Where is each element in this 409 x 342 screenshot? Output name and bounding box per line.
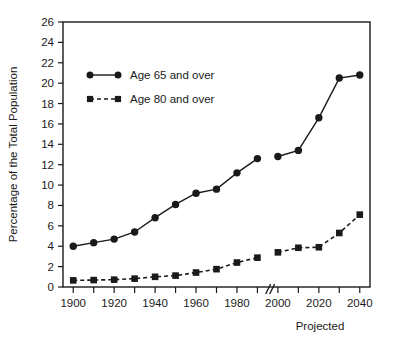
data-point-marker-series-1 bbox=[274, 153, 281, 160]
data-point-marker-series-2 bbox=[336, 230, 343, 237]
y-axis-tick-label: 18 bbox=[41, 98, 54, 110]
data-point-marker-series-2 bbox=[152, 274, 159, 281]
legend-label-series-1: Age 65 and over bbox=[130, 69, 215, 81]
data-point-marker-series-2 bbox=[172, 272, 179, 279]
y-axis-tick-label: 16 bbox=[41, 118, 54, 130]
data-point-marker-series-2 bbox=[70, 277, 77, 284]
line-chart-canvas: 0246810121416182022242619001920194019601… bbox=[0, 0, 409, 342]
series-line-2 bbox=[73, 258, 257, 281]
y-axis-tick-label: 26 bbox=[41, 16, 54, 28]
legend-marker-series-1 bbox=[87, 72, 94, 79]
data-point-marker-series-1 bbox=[90, 239, 97, 246]
x-axis-tick-label: 2000 bbox=[265, 297, 291, 309]
data-point-marker-series-2 bbox=[90, 277, 97, 284]
projected-annotation: Projected bbox=[296, 320, 345, 332]
x-axis-tick-label: 1940 bbox=[142, 297, 168, 309]
x-axis-tick-label: 1920 bbox=[101, 297, 127, 309]
legend-marker-series-2 bbox=[87, 96, 93, 102]
legend-marker-series-2 bbox=[115, 96, 121, 102]
plot-frame bbox=[63, 22, 370, 287]
data-point-marker-series-1 bbox=[356, 71, 363, 78]
data-point-marker-series-1 bbox=[295, 147, 302, 154]
data-point-marker-series-1 bbox=[315, 114, 322, 121]
y-axis-tick-label: 0 bbox=[48, 281, 54, 293]
data-point-marker-series-1 bbox=[213, 185, 220, 192]
y-axis-tick-label: 14 bbox=[41, 138, 54, 150]
y-axis-tick-label: 6 bbox=[48, 220, 54, 232]
data-point-marker-series-1 bbox=[172, 201, 179, 208]
x-axis-tick-label: 2040 bbox=[347, 297, 373, 309]
data-point-marker-series-2 bbox=[193, 269, 200, 276]
y-axis-tick-label: 8 bbox=[48, 199, 54, 211]
legend-label-series-2: Age 80 and over bbox=[130, 93, 215, 105]
data-point-marker-series-2 bbox=[356, 211, 363, 218]
chart-figure: 0246810121416182022242619001920194019601… bbox=[0, 0, 409, 342]
data-point-marker-series-1 bbox=[192, 190, 199, 197]
data-point-marker-series-2 bbox=[275, 249, 282, 256]
data-point-marker-series-1 bbox=[233, 169, 240, 176]
y-axis-tick-label: 4 bbox=[48, 240, 55, 252]
data-point-marker-series-2 bbox=[234, 259, 241, 266]
x-axis-tick-label: 2020 bbox=[306, 297, 332, 309]
data-point-marker-series-2 bbox=[295, 244, 302, 251]
x-axis-tick-label: 1980 bbox=[224, 297, 250, 309]
y-axis-tick-label: 22 bbox=[41, 57, 54, 69]
data-point-marker-series-2 bbox=[111, 276, 118, 283]
legend-marker-series-1 bbox=[115, 72, 122, 79]
data-point-marker-series-1 bbox=[336, 74, 343, 81]
data-point-marker-series-1 bbox=[110, 235, 117, 242]
y-axis-tick-label: 24 bbox=[41, 36, 54, 48]
y-axis-tick-label: 10 bbox=[41, 179, 54, 191]
y-axis-title: Percentage of the Total Population bbox=[7, 67, 19, 243]
data-point-marker-series-1 bbox=[70, 243, 77, 250]
data-point-marker-series-2 bbox=[213, 266, 220, 273]
data-point-marker-series-2 bbox=[254, 254, 261, 261]
x-axis-tick-label: 1900 bbox=[60, 297, 86, 309]
data-point-marker-series-1 bbox=[254, 155, 261, 162]
data-point-marker-series-1 bbox=[131, 228, 138, 235]
y-axis-tick-label: 20 bbox=[41, 77, 54, 89]
data-point-marker-series-2 bbox=[131, 275, 138, 282]
series-line-1 bbox=[73, 159, 257, 247]
data-point-marker-series-2 bbox=[316, 244, 323, 251]
y-axis-tick-label: 12 bbox=[41, 159, 54, 171]
data-point-marker-series-1 bbox=[151, 214, 158, 221]
x-axis-tick-label: 1960 bbox=[183, 297, 209, 309]
y-axis-tick-label: 2 bbox=[48, 261, 54, 273]
